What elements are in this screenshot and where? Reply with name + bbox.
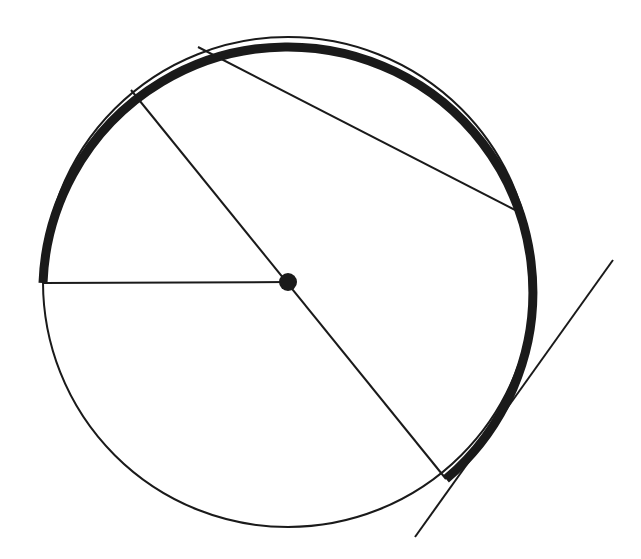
canvas-background [0,0,641,559]
figure-canvas [0,0,641,559]
center-dot [279,273,297,291]
radius-horizontal [43,282,288,283]
circle-geometry-diagram [0,0,641,559]
